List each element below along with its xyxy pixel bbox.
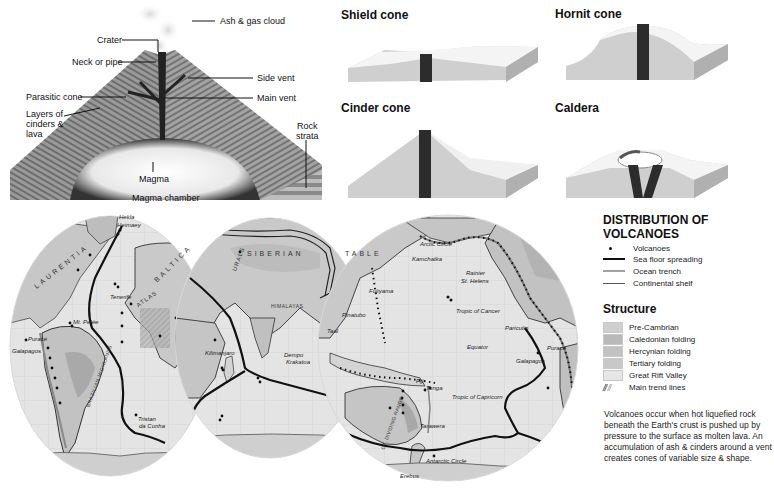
caledonian-swatch <box>603 334 623 345</box>
legend-structure-caledonian: Caledonian folding <box>603 334 695 345</box>
place-tonga: Tonga <box>426 385 442 391</box>
structure-title: Structure <box>603 302 656 316</box>
place-taal: Taal <box>327 328 338 334</box>
place-tristan-2: da Cunha <box>139 423 165 429</box>
place-kilimanjaro: Kilimanjaro <box>205 350 235 356</box>
place-arctic-circle: Arctic Circle <box>420 241 452 247</box>
label-side-vent: Side vent <box>257 73 295 83</box>
place-equator: Equator <box>467 344 488 350</box>
place-purace-west: Puracé <box>28 336 47 342</box>
place-tristan-1: Tristan <box>138 416 156 422</box>
cone-types: Shield cone Hornit cone Cinder cone Cald… <box>330 0 774 210</box>
place-antarctic-circle: Antarctic Circle <box>426 458 466 464</box>
place-erebus: Erebus <box>400 473 419 479</box>
label-magma-chamber: Magma chamber <box>132 193 200 203</box>
label-parasitic-cone: Parasitic cone <box>26 92 83 102</box>
label-magma: Magma <box>139 174 169 184</box>
legend-structure-precambrian: Pre-Cambrian <box>603 322 679 333</box>
hercynian-swatch <box>603 346 623 357</box>
legend-structure-rift: Great Rift Valley <box>603 370 687 381</box>
legend-item-sea-floor: Sea floor spreading <box>603 254 702 265</box>
place-pinatubo: Pinatubo <box>342 312 366 318</box>
label-ash-cloud: Ash & gas cloud <box>220 16 285 26</box>
world-map: LAURENTIA BALTICA ATLAS SIBERIAN TABLE U… <box>0 208 580 488</box>
label-rock-strata-1: Rock <box>297 121 318 131</box>
thin-line-icon <box>603 278 629 289</box>
region-himalayas: HIMALAYAS <box>271 303 303 309</box>
region-siberian: SIBERIAN <box>247 250 304 257</box>
shield-cone-illustration <box>348 46 538 82</box>
legend-item-volcanoes: Volcanoes <box>603 243 670 254</box>
place-paricutin: Paricutin <box>505 325 528 331</box>
place-dempo: Dempo <box>284 352 303 358</box>
place-krakatoa: Krakatoa <box>286 359 310 365</box>
tertiary-swatch <box>603 358 623 369</box>
place-tropic-capricorn: Tropic of Capricorn <box>452 394 503 400</box>
place-galapagos-west: Galapagos <box>12 348 41 354</box>
place-purace-east: Puracé <box>547 345 566 351</box>
region-table: TABLE <box>345 250 382 257</box>
place-mt-pelee: Mt. Pelée <box>73 319 98 325</box>
place-tarawera: Tarawera <box>420 423 445 429</box>
label-crater: Crater <box>97 35 122 45</box>
place-hekla: Hekla <box>119 214 134 220</box>
place-tenerife: Tenerife <box>110 294 131 300</box>
label-layers-1: Layers of <box>26 109 63 119</box>
rift-valley-swatch <box>603 370 623 381</box>
volcano-dot-icon <box>603 243 629 254</box>
legend-structure-tertiary: Tertiary folding <box>603 358 681 369</box>
description-text: Volcanoes occur when hot liquefied rock … <box>604 409 774 464</box>
legend-trend-lines: // // Main trend lines <box>603 382 685 393</box>
label-main-vent: Main vent <box>257 93 296 103</box>
label-neck: Neck or pipe <box>72 57 123 67</box>
place-galapagos-east: Galapagos <box>516 358 545 364</box>
legend-structure-hercynian: Hercynian folding <box>603 346 691 357</box>
place-kamchatka: Kamchatka <box>412 256 442 262</box>
thick-line-icon <box>603 254 629 265</box>
volcano-illustration <box>0 0 340 210</box>
label-layers-3: lava <box>26 129 43 139</box>
place-tropic-cancer: Tropic of Cancer <box>456 308 500 314</box>
place-heimaey: Heimaey <box>117 222 141 228</box>
place-st-helens: St. Helens <box>461 278 489 284</box>
legend-item-ocean-trench: Ocean trench <box>603 266 681 277</box>
legend-title: DISTRIBUTION OF VOLCANOES <box>603 213 774 241</box>
volcano-cross-section: Ash & gas cloud Crater Neck or pipe Side… <box>0 0 340 210</box>
label-layers-2: cinders & <box>26 119 64 129</box>
caldera-illustration <box>566 150 728 198</box>
cinder-cone-illustration <box>348 130 538 198</box>
label-rock-strata-2: strata <box>296 131 319 141</box>
grey-line-icon <box>603 266 629 277</box>
place-fiji: Fiji <box>416 378 424 384</box>
place-rainier: Rainier <box>466 270 485 276</box>
hornit-cone-illustration <box>566 24 728 80</box>
cone-illustrations <box>330 0 774 210</box>
place-fujiyama: Fujiyama <box>369 288 393 294</box>
trend-lines-icon: // // <box>603 383 629 393</box>
precambrian-swatch <box>603 322 623 333</box>
legend-item-continental-shelf: Continental shelf <box>603 278 693 289</box>
